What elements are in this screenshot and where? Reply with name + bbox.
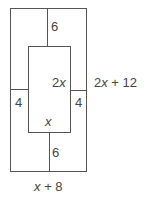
right-gap-label: 4: [75, 96, 82, 110]
inner-rect-left: [28, 46, 29, 133]
top-gap-divider: [47, 8, 48, 46]
left-gap-label: 4: [15, 96, 22, 110]
left-gap-divider: [10, 89, 28, 90]
inner-rect-top: [28, 46, 71, 47]
outer-rect-right: [86, 8, 87, 172]
inner-height-label: 2x: [52, 76, 66, 90]
right-gap-divider: [70, 90, 86, 91]
inner-width-label: x: [45, 115, 52, 129]
outer-rect-left: [10, 8, 11, 172]
outer-height-label: 2x + 12: [94, 76, 137, 90]
bottom-gap-label: 6: [52, 146, 59, 160]
outer-width-label: x + 8: [34, 180, 63, 194]
bottom-gap-divider: [49, 132, 50, 171]
outer-rect-bottom: [10, 171, 87, 172]
outer-rect-top: [10, 8, 87, 9]
top-gap-label: 6: [51, 20, 58, 34]
